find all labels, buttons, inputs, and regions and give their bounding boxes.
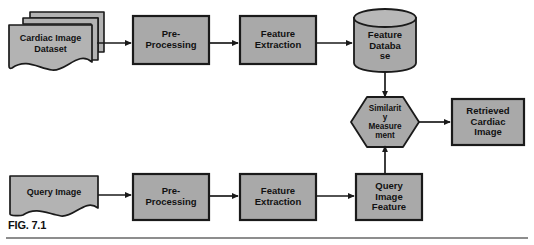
node-query-image-feature [356,174,422,220]
node-similarity-measurement [351,97,419,147]
caption-divider [6,237,528,239]
node-cardiac-image-dataset [9,12,104,70]
node-feature-extraction-top [240,16,316,64]
node-retrieved-cardiac-image [452,99,524,145]
node-feature-extraction-bottom [240,174,316,220]
node-query-image [10,176,98,216]
document-stack-front [9,25,92,70]
figure-container: Cardiac Image Dataset Pre- Processing Fe… [0,0,534,245]
node-pre-processing-top [133,16,209,64]
figure-caption: FIG. 7.1 [8,219,46,231]
node-feature-database [354,9,416,72]
node-pre-processing-bottom [133,174,209,220]
cylinder-top-ellipse [354,9,416,27]
flowchart-diagram [0,0,534,245]
